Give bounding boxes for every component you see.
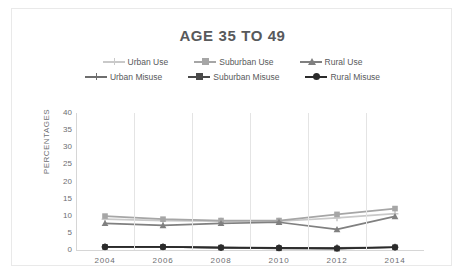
legend-item-rural-misuse[interactable]: Rural Misuse — [305, 72, 380, 82]
x-tick-label: 2014 — [373, 256, 417, 265]
legend-marker-circle-icon — [305, 72, 327, 82]
legend-item-suburban-misuse[interactable]: Suburban Misuse — [188, 72, 279, 82]
legend-item-urban-misuse[interactable]: Urban Misuse — [85, 72, 162, 82]
y-tick-label: 5 — [50, 228, 72, 237]
gridline-vertical — [308, 113, 309, 250]
x-axis-tick-labels: 200420062008201020122014 — [76, 256, 424, 270]
legend-item-label: Suburban Use — [219, 57, 273, 67]
plot-area — [76, 113, 424, 250]
y-tick-label: 30 — [50, 142, 72, 151]
data-point-rural-misuse — [102, 244, 108, 250]
legend-marker-plus-icon — [85, 72, 107, 82]
legend-marker-square-icon — [188, 72, 210, 82]
y-tick-label: 25 — [50, 159, 72, 168]
legend-item-suburban-use[interactable]: Suburban Use — [194, 57, 273, 67]
chart-legend: Urban UseSuburban UseRural UseUrban Misu… — [12, 54, 453, 84]
legend-marker-plus-icon — [103, 57, 125, 67]
legend-row-2: Urban MisuseSuburban MisuseRural Misuse — [12, 69, 453, 84]
y-tick-label: 20 — [50, 177, 72, 186]
y-tick-label: 40 — [50, 108, 72, 117]
data-point-suburban-use — [160, 216, 166, 222]
x-tick-label: 2012 — [315, 256, 359, 265]
data-point-rural-misuse — [334, 245, 340, 251]
legend-row-1: Urban UseSuburban UseRural Use — [12, 54, 453, 69]
data-point-rural-misuse — [276, 245, 282, 251]
data-point-suburban-use — [102, 213, 108, 219]
legend-item-label: Urban Use — [128, 57, 169, 67]
legend-item-urban-use[interactable]: Urban Use — [103, 57, 169, 67]
legend-item-rural-use[interactable]: Rural Use — [300, 57, 363, 67]
legend-item-label: Suburban Misuse — [213, 72, 279, 82]
data-point-rural-misuse — [218, 245, 224, 251]
gridline-vertical — [134, 113, 135, 250]
y-tick-label: 15 — [50, 194, 72, 203]
x-axis-line — [76, 250, 424, 251]
x-tick-label: 2010 — [257, 256, 301, 265]
x-tick-label: 2006 — [141, 256, 185, 265]
data-point-suburban-use — [392, 206, 398, 212]
gridline-vertical — [250, 113, 251, 250]
chart-frame: AGE 35 TO 49 Urban UseSuburban UseRural … — [11, 8, 452, 266]
x-tick-label: 2004 — [83, 256, 127, 265]
y-tick-label: 35 — [50, 125, 72, 134]
data-point-rural-misuse — [160, 244, 166, 250]
gridline-vertical — [192, 113, 193, 250]
y-tick-label: 0 — [50, 245, 72, 254]
legend-marker-triangle-icon — [300, 57, 322, 67]
legend-marker-square-icon — [194, 57, 216, 67]
x-tick-label: 2008 — [199, 256, 243, 265]
y-axis-title: PERCENTAGES — [42, 82, 51, 202]
legend-item-label: Urban Misuse — [110, 72, 162, 82]
chart-title: AGE 35 TO 49 — [12, 27, 453, 44]
gridline-vertical — [366, 113, 367, 250]
data-point-suburban-use — [334, 212, 340, 218]
chart-figure: AGE 35 TO 49 Urban UseSuburban UseRural … — [0, 0, 464, 275]
legend-item-label: Rural Misuse — [330, 72, 380, 82]
y-tick-label: 10 — [50, 211, 72, 220]
legend-item-label: Rural Use — [325, 57, 363, 67]
data-point-rural-misuse — [392, 244, 398, 250]
